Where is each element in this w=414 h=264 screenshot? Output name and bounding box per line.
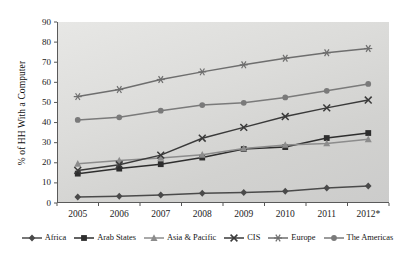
legend-item-cis[interactable]: CIS <box>223 233 260 243</box>
data-series-group <box>74 45 373 200</box>
data-point-star <box>115 86 123 93</box>
data-point-circle <box>331 235 337 241</box>
data-point-square <box>158 161 164 167</box>
data-point-square <box>81 235 87 241</box>
data-point-square <box>365 130 371 136</box>
legend-label: Europe <box>291 233 315 243</box>
legend-item-europe[interactable]: Europe <box>267 233 315 243</box>
legend-item-the-americas[interactable]: The Americas <box>323 233 394 243</box>
data-point-diamond <box>28 235 35 242</box>
data-point-star <box>274 235 282 242</box>
data-point-circle <box>199 102 205 108</box>
data-point-circle <box>75 117 81 123</box>
axis-tick-marks <box>54 22 389 206</box>
legend-label: Asia & Pacific <box>167 233 216 243</box>
data-point-star <box>198 68 206 75</box>
legend-marker-star-icon <box>267 233 289 243</box>
data-point-circle <box>365 81 371 87</box>
legend-label: CIS <box>247 233 260 243</box>
chart-container: % of HH With a Computer 0102030405060708… <box>0 0 414 264</box>
legend-item-asia-pacific[interactable]: Asia & Pacific <box>143 233 216 243</box>
data-point-star <box>74 93 82 100</box>
data-point-circle <box>116 114 122 120</box>
legend-item-arab-states[interactable]: Arab States <box>73 233 136 243</box>
data-point-circle <box>241 100 247 106</box>
legend-marker-circle-icon <box>323 233 345 243</box>
data-point-circle <box>324 88 330 94</box>
data-point-diamond <box>240 189 247 196</box>
series-africa <box>74 183 371 201</box>
data-point-diamond <box>323 185 330 192</box>
data-point-diamond <box>74 193 81 200</box>
legend-label: Africa <box>45 233 66 243</box>
legend-marker-square-icon <box>73 233 95 243</box>
legend-label: The Americas <box>347 233 394 243</box>
data-point-diamond <box>199 190 206 197</box>
legend-marker-triangle-icon <box>143 233 165 243</box>
data-point-circle <box>158 108 164 114</box>
legend-item-africa[interactable]: Africa <box>21 233 66 243</box>
data-point-star <box>157 76 165 83</box>
data-point-diamond <box>282 188 289 195</box>
data-point-star <box>364 45 372 52</box>
chart-legend: AfricaArab StatesAsia & PacificCISEurope… <box>0 233 414 243</box>
data-point-diamond <box>157 191 164 198</box>
series-arab-states <box>75 130 371 176</box>
data-point-diamond <box>116 193 123 200</box>
legend-label: Arab States <box>97 233 136 243</box>
data-point-star <box>281 55 289 62</box>
data-point-star <box>323 49 331 56</box>
series-the-americas <box>75 81 371 123</box>
data-point-diamond <box>365 183 372 190</box>
data-point-star <box>240 61 248 68</box>
legend-marker-diamond-icon <box>21 233 43 243</box>
legend-marker-cross-icon <box>223 233 245 243</box>
series-layer <box>0 0 414 264</box>
data-point-circle <box>282 95 288 101</box>
